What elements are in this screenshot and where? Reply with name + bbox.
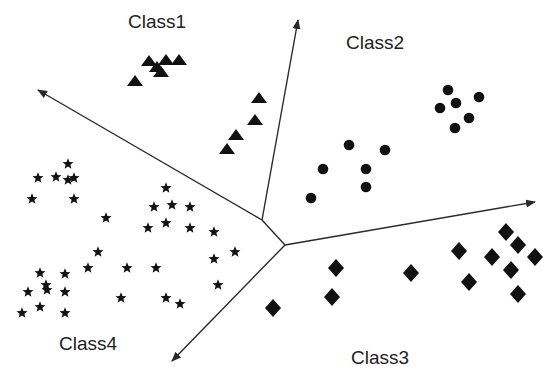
circle-icon xyxy=(318,164,329,175)
star-icon xyxy=(184,201,195,211)
triangle-icon xyxy=(158,54,174,65)
star-icon xyxy=(184,222,195,232)
star-icon xyxy=(41,284,52,294)
star-icon xyxy=(150,262,161,272)
diamond-icon xyxy=(498,223,514,241)
class2-label: Class2 xyxy=(346,33,404,52)
circle-icon xyxy=(344,140,355,151)
diamond-icon xyxy=(324,288,340,306)
star-icon xyxy=(208,253,219,263)
star-icon xyxy=(82,262,93,272)
diamond-icon xyxy=(484,248,500,266)
star-icon xyxy=(59,286,70,296)
class4-label: Class4 xyxy=(59,334,117,353)
junction-link xyxy=(262,220,285,245)
triangle-icon xyxy=(247,114,263,125)
arrow-up-line xyxy=(262,20,298,220)
diamond-icon xyxy=(403,264,419,282)
arrow-right-line xyxy=(285,202,535,245)
star-icon xyxy=(229,246,240,256)
star-icon xyxy=(50,171,61,181)
diamond-icon xyxy=(265,299,281,317)
star-icon xyxy=(160,292,171,302)
multiclass-classification-diagram xyxy=(0,0,556,386)
class3-points xyxy=(265,223,543,317)
star-icon xyxy=(32,172,43,182)
circle-icon xyxy=(464,113,475,124)
diamond-icon xyxy=(451,242,467,260)
circle-icon xyxy=(361,164,372,175)
star-icon xyxy=(16,307,27,317)
triangle-icon xyxy=(171,54,187,65)
star-icon xyxy=(174,298,185,308)
star-icon xyxy=(160,182,171,192)
star-icon xyxy=(115,292,126,302)
diamond-icon xyxy=(328,259,344,277)
diamond-icon xyxy=(503,261,519,279)
circle-icon xyxy=(380,145,391,156)
star-icon xyxy=(160,217,171,227)
circle-icon xyxy=(450,123,461,134)
star-icon xyxy=(22,286,33,296)
star-icon xyxy=(212,279,223,289)
star-icon xyxy=(59,307,70,317)
star-icon xyxy=(142,222,153,232)
star-icon xyxy=(92,246,103,256)
class3-label: Class3 xyxy=(351,348,409,367)
class4-points xyxy=(16,158,240,317)
circle-icon xyxy=(443,85,454,96)
star-icon xyxy=(148,201,159,211)
circle-icon xyxy=(306,193,317,204)
diamond-icon xyxy=(510,236,526,254)
circle-icon xyxy=(435,103,446,114)
star-icon xyxy=(34,267,45,277)
diamond-icon xyxy=(527,248,543,266)
star-icon xyxy=(62,158,73,168)
diamond-icon xyxy=(510,285,526,303)
star-icon xyxy=(166,199,177,209)
star-icon xyxy=(208,226,219,236)
triangle-icon xyxy=(219,143,235,154)
class2-points xyxy=(306,85,485,204)
star-icon xyxy=(26,193,37,203)
star-icon xyxy=(68,193,79,203)
class1-points xyxy=(127,54,267,154)
star-icon xyxy=(59,268,70,278)
class1-label: Class1 xyxy=(128,12,186,31)
triangle-icon xyxy=(127,75,143,86)
circle-icon xyxy=(474,92,485,103)
decision-boundaries xyxy=(38,20,535,361)
data-points xyxy=(16,54,543,318)
circle-icon xyxy=(361,182,372,193)
triangle-icon xyxy=(228,129,244,140)
circle-icon xyxy=(451,98,462,109)
triangle-icon xyxy=(251,92,267,103)
arrow-down-left-line xyxy=(172,245,285,361)
star-icon xyxy=(100,212,111,222)
star-icon xyxy=(34,301,45,311)
star-icon xyxy=(121,262,132,272)
diamond-icon xyxy=(461,273,477,291)
